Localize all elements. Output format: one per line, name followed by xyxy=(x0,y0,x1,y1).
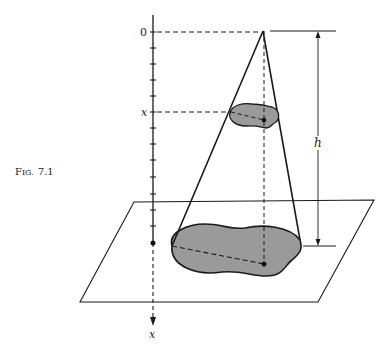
caption-number: 7.1 xyxy=(38,166,54,177)
caption-prefix: F xyxy=(15,166,22,177)
x-axis-arrow-down-icon xyxy=(150,317,156,326)
axis-end-label: x xyxy=(149,328,156,341)
figure-caption: FIG.7.1 xyxy=(15,166,54,177)
axis-base-dot xyxy=(151,241,156,246)
height-arrow-up-icon xyxy=(316,31,321,38)
cone-left-edge xyxy=(172,31,263,246)
cone-right-edge xyxy=(263,31,300,240)
cone-volume-diagram: h 0 x x FIG.7.1 xyxy=(0,0,389,350)
axis-origin-label: 0 xyxy=(140,26,147,39)
level-center-dot xyxy=(262,118,267,123)
base-center-dot xyxy=(262,262,267,267)
height-arrow-down-icon xyxy=(316,239,321,246)
axis-level-label: x xyxy=(141,106,148,119)
height-label: h xyxy=(314,136,322,150)
caption-smallcaps: IG. xyxy=(22,168,34,177)
level-cross-section xyxy=(230,104,279,128)
